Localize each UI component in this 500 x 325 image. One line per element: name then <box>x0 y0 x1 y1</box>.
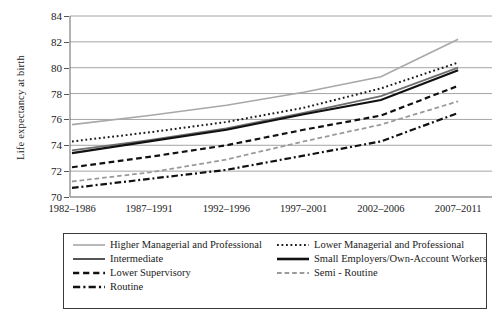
legend-label: Lower Supervisory <box>110 267 191 279</box>
legend-label: Higher Managerial and Professional <box>110 239 262 251</box>
legend-swatch-line <box>72 239 106 251</box>
legend-swatch-line <box>276 239 310 251</box>
chart-legend: Higher Managerial and ProfessionalLower … <box>63 233 487 309</box>
plot-area: Life expectancy at birth 707274767880828… <box>0 0 500 228</box>
x-tick-label: 1992–1996 <box>203 203 250 214</box>
series-line-5 <box>72 101 458 181</box>
legend-item[interactable]: Lower Supervisory <box>72 267 276 279</box>
y-tick-mark <box>64 16 69 17</box>
legend-item[interactable]: Semi - Routine <box>276 267 488 279</box>
legend-swatch-line <box>72 267 106 279</box>
legend-grid: Higher Managerial and ProfessionalLower … <box>72 239 478 293</box>
legend-item[interactable]: Lower Managerial and Professional <box>276 239 488 251</box>
legend-label: Routine <box>110 281 143 293</box>
y-tick-mark <box>64 171 69 172</box>
y-tick-mark <box>64 42 69 43</box>
x-tick-label: 1987–1991 <box>126 203 173 214</box>
y-tick-mark <box>64 68 69 69</box>
legend-empty <box>276 281 488 293</box>
series-line-1 <box>72 63 458 142</box>
legend-label: Lower Managerial and Professional <box>314 239 464 251</box>
y-tick-mark <box>64 197 69 198</box>
x-axis-tick-labels: 1982–19861987–19911992–19961997–20012002… <box>0 203 500 223</box>
x-tick-label: 1997–2001 <box>280 203 327 214</box>
legend-item[interactable]: Higher Managerial and Professional <box>72 239 276 251</box>
legend-swatch-line <box>72 281 106 293</box>
legend-label: Small Employers/Own-Account Workers <box>314 253 487 265</box>
y-tick-mark <box>64 94 69 95</box>
series-line-6 <box>72 113 458 188</box>
legend-label: Semi - Routine <box>314 267 378 279</box>
legend-item[interactable]: Small Employers/Own-Account Workers <box>276 253 488 265</box>
legend-swatch-line <box>276 253 310 265</box>
legend-swatch-line <box>276 267 310 279</box>
legend-swatch-line <box>72 253 106 265</box>
legend-item[interactable]: Routine <box>72 281 276 293</box>
x-tick-label: 2007–2011 <box>435 203 482 214</box>
x-tick-label: 2002–2006 <box>357 203 404 214</box>
x-tick-label: 1982–1986 <box>48 203 95 214</box>
line-chart-svg <box>0 0 500 228</box>
y-tick-mark <box>64 119 69 120</box>
chart-page: Life expectancy at birth 707274767880828… <box>0 0 500 325</box>
y-tick-mark <box>64 145 69 146</box>
legend-item[interactable]: Intermediate <box>72 253 276 265</box>
legend-label: Intermediate <box>110 253 163 265</box>
